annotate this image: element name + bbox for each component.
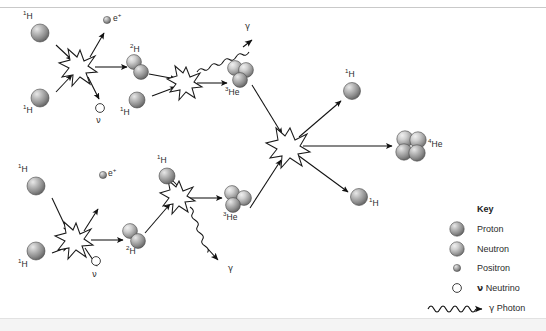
proton-h1-b bbox=[31, 89, 49, 107]
proton-h1-c bbox=[129, 92, 145, 108]
key-photon-wave-icon bbox=[428, 306, 476, 312]
positron-a bbox=[103, 16, 110, 23]
arrow-burst-to-positron bbox=[90, 33, 104, 57]
proton-h1-a bbox=[31, 24, 49, 42]
label-h1-h: 1H bbox=[369, 199, 379, 208]
label-neutrino-a: ν bbox=[96, 116, 101, 125]
label-h1-e: 1H bbox=[18, 165, 28, 174]
pp-chain-svg bbox=[0, 0, 546, 331]
key-proton-sphere-icon bbox=[450, 222, 464, 236]
label-2h-b: 2H bbox=[126, 247, 136, 256]
proton-h1-h bbox=[351, 189, 368, 206]
key-label-positron: Positron bbox=[477, 263, 510, 273]
positron-b bbox=[99, 171, 106, 178]
key-neutrino-circle-icon bbox=[453, 284, 462, 293]
proton-h1-d bbox=[159, 168, 175, 184]
key-label-proton: Proton bbox=[477, 224, 504, 234]
helium3-b bbox=[225, 186, 252, 213]
arrow-burst-to-neutrino bbox=[88, 77, 99, 99]
arrow-h1b-to-burst bbox=[56, 75, 72, 92]
helium3-a bbox=[228, 61, 254, 88]
photon-arrow-lower bbox=[208, 249, 218, 260]
label-photon-b: γ bbox=[228, 264, 233, 273]
label-h1-a: 1H bbox=[23, 12, 33, 21]
key-title: Key bbox=[477, 204, 494, 214]
label-photon-a: γ bbox=[245, 22, 250, 31]
photon-arrow-upper bbox=[243, 40, 252, 47]
key-label-neutron: Neutron bbox=[477, 244, 509, 254]
label-h1-c: 1H bbox=[120, 108, 130, 117]
photon-wave-lower bbox=[190, 207, 208, 253]
label-h1-f: 1H bbox=[18, 260, 28, 269]
key-label-neutrino: ν Neutrino bbox=[477, 283, 520, 293]
arrow-burst-to-positron-lower bbox=[84, 209, 98, 231]
neutrino-a bbox=[96, 104, 105, 113]
arrow-center-to-h1g bbox=[299, 101, 341, 137]
label-2h-a: 2H bbox=[130, 45, 140, 54]
arrow-he3a-to-center bbox=[252, 85, 282, 134]
arrow-deuteron-to-burst2-lower bbox=[145, 204, 170, 233]
helium4 bbox=[396, 131, 426, 161]
diagram-canvas: 1H 1H e+ ν 2H 1H 3He γ 1H 1H e+ ν 2H 1H … bbox=[0, 0, 546, 331]
arrow-center-to-h1h bbox=[299, 156, 348, 192]
burst-center bbox=[266, 128, 310, 168]
key-neutrino-word: Neutrino bbox=[486, 283, 520, 293]
label-h1-d: 1H bbox=[157, 156, 167, 165]
burst-lower-1 bbox=[55, 222, 93, 259]
label-positron-a: e+ bbox=[113, 14, 122, 23]
neutrino-b bbox=[92, 257, 101, 266]
label-he4: 4He bbox=[428, 140, 443, 149]
key-photon-word: Photon bbox=[497, 303, 526, 313]
key-neutron-sphere-icon bbox=[450, 242, 464, 256]
arrow-group-center bbox=[250, 85, 392, 208]
key-positron-dot-icon bbox=[453, 264, 460, 271]
proton-h1-g bbox=[344, 83, 361, 100]
label-he3-a: 3He bbox=[225, 88, 240, 97]
label-h1-g: 1H bbox=[345, 70, 355, 79]
proton-h1-e bbox=[27, 177, 45, 195]
label-neutrino-b: ν bbox=[92, 270, 97, 279]
label-h1-b: 1H bbox=[23, 106, 33, 115]
burst-upper-2 bbox=[167, 66, 202, 100]
label-positron-b: e+ bbox=[108, 169, 117, 178]
key-label-photon: γ Photon bbox=[489, 303, 525, 313]
label-he3-b: 3He bbox=[223, 213, 238, 222]
deuteron-2h-a bbox=[127, 55, 149, 80]
arrow-he3b-to-center bbox=[250, 160, 281, 208]
proton-h1-f bbox=[27, 242, 45, 260]
